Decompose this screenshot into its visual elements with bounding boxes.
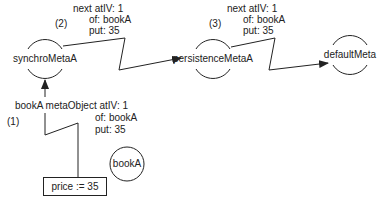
message-arrow-2 <box>63 38 181 70</box>
diagram-canvas: synchroMetaA persistenceMetaA defaultMet… <box>0 0 381 203</box>
step-1-line3: put: 35 <box>95 124 126 136</box>
default-node-label: defaultMeta <box>324 49 376 61</box>
step-3-line3: put: 35 <box>243 25 274 37</box>
message-arrow-1 <box>45 113 78 177</box>
statement-label: price := 35 <box>52 181 99 192</box>
step-2-line3: put: 35 <box>89 25 120 37</box>
synchro-node-label: synchroMetaA <box>13 53 77 65</box>
book-node-label: bookA <box>113 158 141 170</box>
statement-box: price := 35 <box>43 177 107 196</box>
step-2-number: (2) <box>55 18 67 30</box>
step-1-line2: of: bookA <box>95 112 137 124</box>
step-3-number: (3) <box>209 18 221 30</box>
step-1-line1: bookA metaObject atIV: 1 <box>15 100 128 112</box>
step-1-number: (1) <box>7 116 19 128</box>
persistence-node-label: persistenceMetaA <box>173 53 253 65</box>
